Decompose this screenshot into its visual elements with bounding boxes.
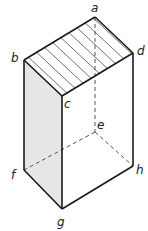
vertex-label-g: g bbox=[57, 215, 65, 229]
vertex-label-h: h bbox=[136, 163, 144, 177]
vertex-label-e: e bbox=[97, 118, 104, 132]
vertex-label-d: d bbox=[137, 44, 145, 58]
edge-gh bbox=[62, 166, 133, 209]
edge-da bbox=[95, 17, 133, 53]
shaded-face-bcgf bbox=[24, 60, 62, 209]
edge-ab bbox=[24, 17, 95, 60]
vertex-label-c: c bbox=[64, 97, 71, 111]
vertex-label-b: b bbox=[11, 51, 19, 65]
edge-eh bbox=[95, 132, 133, 166]
vertex-label-a: a bbox=[91, 1, 98, 15]
vertex-label-f: f bbox=[11, 168, 17, 182]
cuboid-diagram: a b c d e f g h bbox=[0, 0, 148, 231]
